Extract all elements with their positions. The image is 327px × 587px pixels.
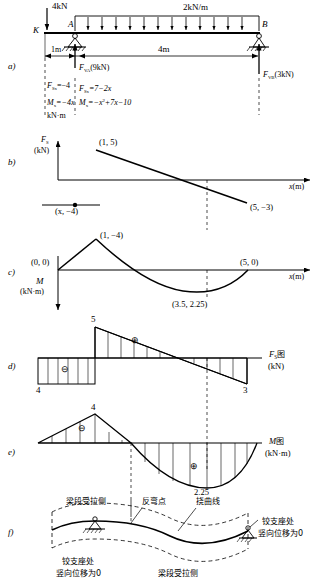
panel-d-unit: (kN) <box>268 362 284 371</box>
panel-label-c: c) <box>8 268 15 277</box>
equation-moment-right: Mx=−x2+7x−10 <box>79 99 131 107</box>
panel-c-yaxis-symbol: M <box>36 277 44 286</box>
label-support-right-line1: 铰支座处 <box>262 518 294 526</box>
panel-label-a: a) <box>8 62 16 71</box>
node-label-b: B <box>262 20 268 29</box>
panel-e-value-peak: 4 <box>91 403 96 412</box>
panel-b-yaxis-symbol: FS <box>41 136 49 144</box>
panel-b-point-start: (1, 5) <box>99 138 117 147</box>
panel-c-point-min: (3.5, 2.25) <box>172 300 207 309</box>
dim-left-label: 1m <box>51 46 61 54</box>
panel-d-diagram-name: FS图 <box>269 350 285 359</box>
panel-e-sign-negative: ⊖ <box>78 424 86 433</box>
equation-shear-left: FSx=−4 <box>47 82 70 90</box>
panel-c-point-origin: (0, 0) <box>31 258 49 267</box>
panel-c-point-end: (5, 0) <box>240 258 258 267</box>
figure-root: a) b) c) d) e) f) 4kN 2kN/m K A B 1m 4m … <box>0 0 327 587</box>
label-deflection-curve: 挠曲线 <box>196 498 220 506</box>
label-support-left-line1: 铰支座处 <box>62 558 94 566</box>
panel-b-yaxis-unit: (kN) <box>34 147 49 155</box>
panel-d-value-left: 4 <box>36 386 41 395</box>
panel-e-value-min: 2.25 <box>194 488 209 497</box>
panel-e-unit: (kN·m) <box>265 449 291 458</box>
label-inflection-point: 反弯点 <box>142 498 166 506</box>
panel-b-point-end: (5, −3) <box>250 203 273 212</box>
panel-c-point-peak: (1, −4) <box>100 231 123 240</box>
equation-moment-left: Mx=−4x <box>47 99 74 107</box>
panel-e-diagram-name: M图 <box>269 437 284 446</box>
label-support-right-line2: 竖向位移为0 <box>258 530 303 538</box>
panel-c-yaxis-unit: (kN·m) <box>20 288 44 296</box>
panel-label-b: b) <box>8 158 16 167</box>
panel-d-sign-negative: ⊖ <box>61 365 69 374</box>
panel-a-graphics <box>44 8 269 115</box>
reaction-b-label: FVB(3kN) <box>263 71 294 79</box>
panel-label-d: d) <box>8 362 16 371</box>
panel-c-xaxis-label: x(m) <box>289 273 304 281</box>
panel-d-value-top: 5 <box>91 315 96 324</box>
panel-label-e: e) <box>8 448 15 457</box>
panel-e-sign-positive: ⊕ <box>190 462 198 471</box>
label-tension-bottom: 梁段受拉侧 <box>158 570 198 578</box>
label-support-left-line2: 竖向位移为0 <box>56 570 101 578</box>
dim-right-label: 4m <box>158 45 170 54</box>
panel-f-graphics <box>52 500 258 561</box>
node-label-a: A <box>68 20 74 29</box>
panel-b-point-left-segment: (x, −4) <box>55 207 78 216</box>
panel-b-xaxis-label: x(m) <box>289 183 304 191</box>
distributed-load-label: 2kN/m <box>183 3 208 12</box>
panel-d-graphics <box>38 327 262 430</box>
unit-knm-label: kN·m <box>47 112 66 120</box>
panel-b-graphics <box>42 141 310 230</box>
panel-d-value-right: 3 <box>243 386 248 395</box>
label-tension-top: 梁段受拉侧 <box>66 498 106 506</box>
node-label-k: K <box>33 26 39 35</box>
reaction-a-label: FVA(9kN) <box>79 64 109 72</box>
panel-label-f: f) <box>8 528 14 537</box>
equation-shear-right: FSx=7−2x <box>79 85 111 93</box>
point-load-label: 4kN <box>52 2 68 11</box>
panel-d-sign-positive: ⊕ <box>131 336 139 345</box>
